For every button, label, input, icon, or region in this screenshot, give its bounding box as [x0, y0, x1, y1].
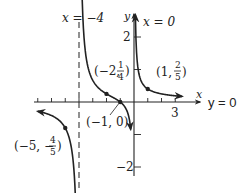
- svg-text:): ): [182, 65, 187, 79]
- tick-label-neg2: −2: [116, 160, 134, 174]
- x-axis-label: x: [196, 88, 203, 101]
- x-axis-ticks: [38, 98, 176, 102]
- asymptote-label-x-0: x = 0: [143, 15, 175, 29]
- svg-text:(−5, −: (−5, −: [14, 139, 54, 153]
- asymptote-label-y-0: y = 0: [208, 95, 237, 110]
- data-point: [146, 87, 150, 91]
- data-point: [104, 92, 108, 96]
- svg-text:): ): [57, 139, 62, 153]
- svg-text:5: 5: [50, 147, 56, 157]
- point-label-neg2: (−2, 1 4 ): [94, 60, 130, 82]
- tick-label-2: 2: [123, 30, 131, 44]
- svg-text:1: 1: [118, 60, 124, 70]
- svg-text:4: 4: [50, 135, 56, 145]
- svg-text:(−2,: (−2,: [94, 64, 120, 78]
- svg-text:5: 5: [175, 72, 181, 82]
- leader-line-neg1: [110, 102, 120, 115]
- data-point: [63, 126, 67, 130]
- point-label-neg1: (−1, 0): [86, 115, 128, 129]
- tick-label-3: 3: [171, 106, 179, 120]
- svg-text:4: 4: [118, 72, 124, 82]
- asymptote-label-x-neg4: x = −4: [62, 11, 104, 25]
- rational-function-graph: x = −4 x = 0 y = 0 x y 3 2 −2 (−2, 1 4 )…: [0, 0, 245, 193]
- point-label-1: (1, 2 5 ): [156, 60, 187, 82]
- svg-text:): ): [125, 64, 130, 78]
- y-axis-label: y: [123, 10, 131, 23]
- svg-text:(1,: (1,: [156, 65, 172, 79]
- svg-text:2: 2: [175, 60, 181, 70]
- point-label-neg5: (−5, − 4 5 ): [14, 135, 62, 157]
